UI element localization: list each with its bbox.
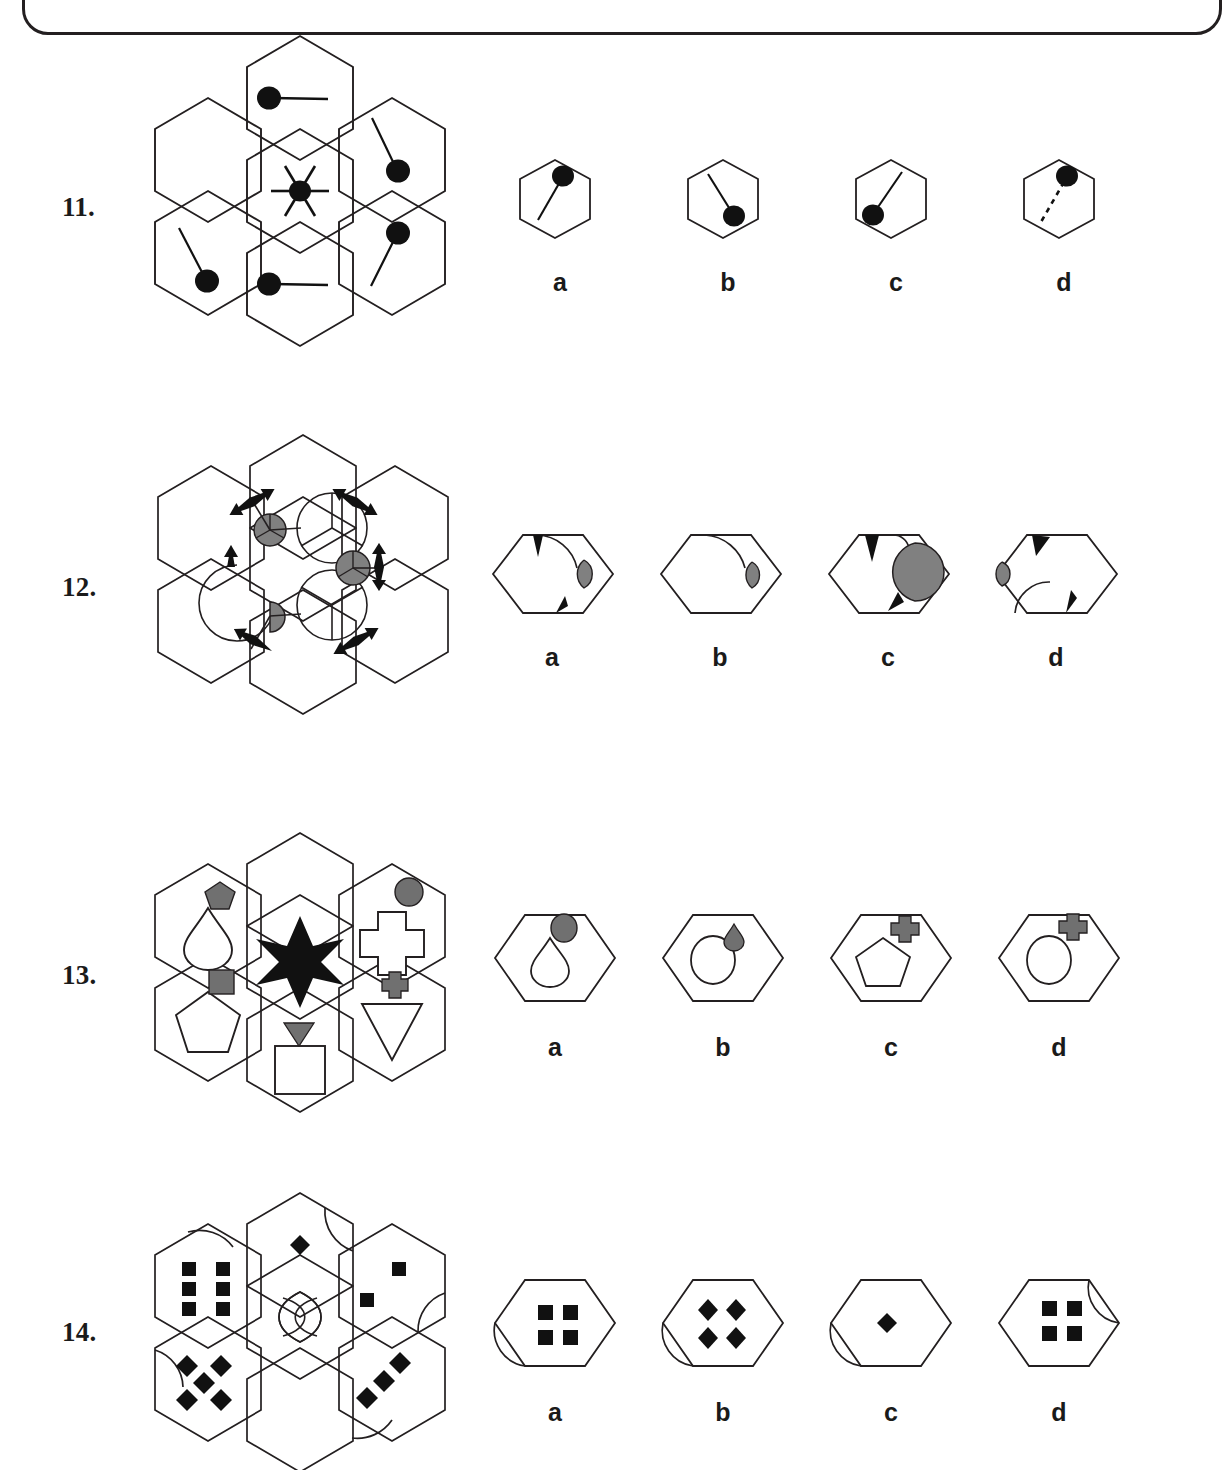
cell-upper-left-six-squares [182,1262,230,1316]
question-number-13: 13. [62,960,97,991]
cell-upper-right-cross [360,878,424,975]
cell-bottom-square [275,1023,325,1094]
cell-lower-left-five-diamonds [176,1355,232,1411]
option-13-d-figure [1027,914,1087,984]
option-label-13-b[interactable]: b [703,1033,743,1062]
options-group-12: a b c d [505,510,1145,635]
option-label-11-a[interactable]: a [540,268,580,297]
cell-top-dot-line-right [257,87,328,110]
matrix-figure-11 [165,58,435,323]
option-label-12-c[interactable]: c [868,643,908,672]
cell-lower-right-triangle [362,972,422,1060]
matrix-figure-14 [160,1180,440,1470]
option-label-14-a[interactable]: a [535,1398,575,1427]
option-label-14-b[interactable]: b [703,1398,743,1427]
cell-lower-left-pentagon [176,970,240,1052]
cell-upper-right-dot-line-up-left [372,118,410,183]
option-14-c-figure [830,1313,897,1366]
cell-center-dot-spokes [271,166,329,216]
option-label-14-c[interactable]: c [871,1398,911,1427]
option-12-d-figure [996,535,1077,613]
option-13-b-figure [691,924,744,984]
option-label-12-b[interactable]: b [700,643,740,672]
cell-bottom-dot-line-right [257,273,328,296]
option-label-12-d[interactable]: d [1036,643,1076,672]
q12-grey-discs [254,514,370,632]
question-number-11: 11. [62,192,95,223]
options-group-13: a b c d [505,900,1145,1025]
option-label-11-d[interactable]: d [1044,268,1084,297]
option-12-c-figure [865,535,944,611]
option-14-b-figure [662,1299,746,1366]
option-13-c-figure [856,916,919,986]
option-14-d-figure [1042,1280,1119,1341]
cell-upper-left-teardrop [184,882,235,970]
matrix-figure-12 [165,425,440,725]
option-11-b-figure [708,174,745,227]
question-row-12: 12. [0,380,1201,740]
option-label-13-a[interactable]: a [535,1033,575,1062]
option-label-13-c[interactable]: c [871,1033,911,1062]
options-group-11: a b c d [505,150,1145,265]
option-12-b-figure [705,535,760,588]
cell-center-black-star [256,916,344,1008]
option-11-d-figure [1041,166,1078,223]
question-row-14: 14. [0,1135,1201,1466]
cell-top-one-diamond [290,1235,310,1255]
cell-lower-left-dot-line-up-right [179,228,219,293]
option-12-a-figure [533,535,592,613]
options-group-14: a b c d [505,1265,1145,1390]
cell-lower-right-three-diamonds [356,1352,411,1409]
cell-upper-right-two-squares [360,1262,406,1307]
matrix-figure-13 [160,820,440,1110]
option-14-a-figure [494,1305,578,1366]
option-11-c-figure [862,172,902,226]
option-label-11-b[interactable]: b [708,268,748,297]
question-row-11: 11. [0,0,1201,360]
option-label-14-d[interactable]: d [1039,1398,1079,1427]
option-label-12-a[interactable]: a [532,643,572,672]
question-row-13: 13. [0,760,1201,1130]
option-label-11-c[interactable]: c [876,268,916,297]
question-number-14: 14. [62,1317,97,1348]
question-number-12: 12. [62,572,97,603]
cell-lower-right-dot-line-down-left [371,222,410,287]
option-label-13-d[interactable]: d [1039,1033,1079,1062]
option-13-a-figure [531,914,577,987]
option-11-a-figure [538,166,574,221]
